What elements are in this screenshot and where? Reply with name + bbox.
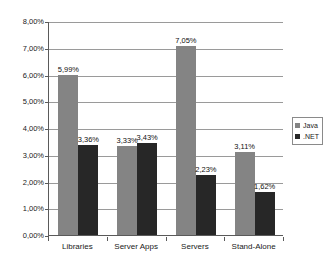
gridline — [49, 129, 283, 130]
bar-chart: 0,00%1,00%2,00%3,00%4,00%5,00%6,00%7,00%… — [0, 0, 330, 273]
y-axis-tick — [45, 49, 49, 50]
bar-value-label: 3,43% — [130, 133, 164, 142]
y-axis-tick — [45, 209, 49, 210]
y-axis-tick-label: 0,00% — [0, 232, 44, 240]
y-axis-tick-label: 4,00% — [0, 125, 44, 133]
gridline — [49, 102, 283, 103]
x-axis-tick — [48, 237, 49, 241]
bar-servers-dotnet — [196, 175, 216, 235]
y-axis-tick-label: 3,00% — [0, 152, 44, 160]
gridline — [49, 22, 283, 23]
bar-value-label: 2,23% — [189, 165, 223, 174]
legend-item-label: .NET — [303, 133, 319, 141]
gridline — [49, 49, 283, 50]
bar-libraries-java — [58, 75, 78, 235]
y-axis-tick — [45, 22, 49, 23]
y-axis-tick-label: 6,00% — [0, 72, 44, 80]
x-axis-tick — [107, 237, 108, 241]
bar-server-apps-java — [117, 146, 137, 235]
bar-stand-alone-java — [235, 152, 255, 235]
bar-value-label: 7,05% — [169, 36, 203, 45]
gridline — [49, 76, 283, 77]
y-axis-tick-label: 8,00% — [0, 18, 44, 26]
y-axis-tick-label: 7,00% — [0, 45, 44, 53]
legend-item-label: Java — [303, 122, 318, 130]
y-axis-tick-label: 5,00% — [0, 98, 44, 106]
y-axis-tick — [45, 76, 49, 77]
plot-area: 5,99%3,36%3,33%3,43%7,05%2,23%3,11%1,62% — [48, 22, 283, 236]
y-axis-tick — [45, 102, 49, 103]
x-axis-tick — [166, 237, 167, 241]
x-axis-tick — [224, 237, 225, 241]
bar-value-label: 1,62% — [248, 182, 282, 191]
x-axis-tick — [283, 237, 284, 241]
bar-value-label: 3,11% — [228, 142, 262, 151]
y-axis-tick — [45, 183, 49, 184]
legend-item-dotnet: .NET — [295, 132, 319, 141]
bar-value-label: 5,99% — [51, 65, 85, 74]
x-axis-category-label: Stand-Alone — [224, 242, 283, 252]
x-axis-category-label: Server Apps — [107, 242, 166, 252]
bar-stand-alone-dotnet — [255, 192, 275, 235]
bar-server-apps-dotnet — [137, 143, 157, 235]
y-axis-tick — [45, 156, 49, 157]
bar-libraries-dotnet — [78, 145, 98, 235]
chart-legend: Java.NET — [292, 117, 323, 145]
legend-swatch-icon — [295, 123, 300, 128]
legend-swatch-icon — [295, 134, 300, 139]
bar-value-label: 3,36% — [71, 135, 105, 144]
y-axis-tick — [45, 129, 49, 130]
bar-servers-java — [176, 46, 196, 235]
y-axis-tick-label: 2,00% — [0, 179, 44, 187]
x-axis-category-label: Servers — [166, 242, 225, 252]
legend-item-java: Java — [295, 121, 319, 130]
x-axis-category-label: Libraries — [48, 242, 107, 252]
y-axis-tick-label: 1,00% — [0, 205, 44, 213]
